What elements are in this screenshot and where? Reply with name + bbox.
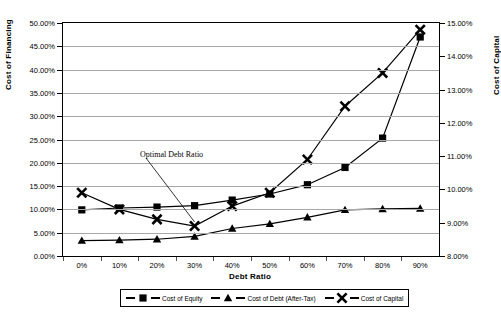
legend-label: Cost of Debt (After-Tax) [247,295,315,302]
gridline [63,93,439,94]
y-axis-left-tick-label: 25.00% [3,135,55,144]
data-point-cross [340,102,349,111]
legend-line [151,297,160,299]
gridline [63,163,439,164]
gridline [63,116,439,117]
y-axis-right-tick-mark [440,223,445,224]
data-point-cross [337,293,346,302]
legend-line [211,297,220,299]
y-axis-left-tick-label: 20.00% [3,158,55,167]
data-point-square [139,294,146,301]
y-axis-right-tick-label: 9.00% [447,218,499,227]
y-axis-left-title: Cost of Financing [4,19,13,90]
annotation-optimal-debt-ratio: Optimal Debt Ratio [140,150,203,159]
x-axis-tick-mark [176,257,177,261]
x-axis-title: Debt Ratio [0,272,500,281]
y-axis-left-tick-label: 5.00% [3,228,55,237]
x-axis-tick-label: 30% [175,261,215,270]
y-axis-left-tick-label: 45.00% [3,42,55,51]
legend-line [126,297,135,299]
y-axis-right-tick-label: 10.00% [447,185,499,194]
data-point-cross [416,25,425,34]
gridline [63,140,439,141]
y-axis-right-tick-mark [440,23,445,24]
x-axis-tick-label: 80% [363,261,403,270]
plot-area [62,22,440,257]
x-axis-tick-label: 90% [400,261,440,270]
legend-label: Cost of Capital [361,295,404,302]
y-axis-right-tick-label: 8.00% [447,252,499,261]
y-axis-right-tick-mark [440,123,445,124]
y-axis-right-tick-mark [440,256,445,257]
legend-item[interactable]: Cost of Equity [126,292,202,304]
x-axis-tick-mark [138,257,139,261]
x-axis-tick-label: 0% [62,261,102,270]
x-axis-tick-label: 60% [287,261,327,270]
gridline [63,70,439,71]
y-axis-right-tick-mark [440,56,445,57]
y-axis-right-tick-label: 14.00% [447,52,499,61]
y-axis-left-tick-label: 0.00% [3,252,55,261]
data-point-triangle [224,294,232,301]
x-axis-tick-mark [251,257,252,261]
legend-marker-triangle [222,292,234,304]
x-axis-tick-mark [401,257,402,261]
x-axis-tick-label: 40% [212,261,252,270]
y-axis-right-tick-mark [440,156,445,157]
series-line [82,37,420,210]
y-axis-left-tick-label: 50.00% [3,19,55,28]
data-point-square [379,135,386,142]
x-axis-tick-mark [326,257,327,261]
y-axis-right-tick-label: 12.00% [447,118,499,127]
x-axis-tick-label: 70% [325,261,365,270]
legend-line [325,297,334,299]
legend-line [236,297,245,299]
data-point-cross [77,188,86,197]
x-axis-tick-label: 20% [137,261,177,270]
data-point-square [304,181,311,188]
y-axis-right-tick-label: 15.00% [447,19,499,28]
legend-line [350,297,359,299]
x-axis-tick-mark [101,257,102,261]
legend-item[interactable]: Cost of Debt (After-Tax) [211,292,315,304]
gridline [63,186,439,187]
y-axis-left-tick-label: 30.00% [3,112,55,121]
data-point-square [341,164,348,171]
data-point-square [417,33,424,40]
legend-marker-square [137,292,149,304]
x-axis-tick-label: 50% [250,261,290,270]
data-point-square [191,202,198,209]
gridline [63,46,439,47]
y-axis-right-tick-mark [440,189,445,190]
gridline [63,233,439,234]
y-axis-right-tick-label: 11.00% [447,152,499,161]
x-axis-tick-mark [63,257,64,261]
gridline [63,209,439,210]
legend-label: Cost of Equity [162,295,202,302]
x-axis-tick-mark [213,257,214,261]
x-axis-tick-mark [364,257,365,261]
y-axis-right-tick-mark [440,90,445,91]
y-axis-right-tick-label: 13.00% [447,85,499,94]
legend-item[interactable]: Cost of Capital [325,292,404,304]
y-axis-left-tick-label: 40.00% [3,65,55,74]
x-axis-tick-label: 10% [99,261,139,270]
x-axis-tick-mark [289,257,290,261]
y-axis-left-tick-label: 35.00% [3,88,55,97]
legend-marker-cross [336,292,348,304]
y-axis-left-tick-label: 10.00% [3,205,55,214]
y-axis-left-tick-label: 15.00% [3,182,55,191]
chart-legend: Cost of EquityCost of Debt (After-Tax)Co… [120,289,409,307]
